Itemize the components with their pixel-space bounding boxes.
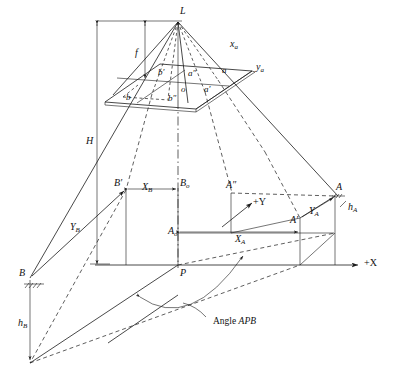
photo-plane <box>105 64 255 112</box>
ya-letter: Y <box>309 205 315 216</box>
xb-subscript: B <box>148 186 152 194</box>
label-ground-a: A <box>336 182 342 192</box>
label-xa: XA <box>235 234 245 244</box>
label-ground-b-prime: B′ <box>114 178 122 188</box>
label-ground-a-dprime: A″ <box>226 180 236 190</box>
ha-subscript: A <box>353 206 357 214</box>
photo-axis-x-subscript: a <box>234 43 238 51</box>
label-plus-x-axis: +X <box>364 258 377 268</box>
lower-convergence-rays <box>30 265 300 363</box>
hb-subscript: B <box>23 322 27 330</box>
label-image-point-a-dprime: a″ <box>188 69 196 78</box>
label-image-point-a-prime: a′ <box>204 85 210 94</box>
top-dimension-line <box>97 21 182 26</box>
perspective-ray-bundle <box>113 22 218 103</box>
photogrammetry-figure: L f H o a a′ a″ b b′ b″ xa ya B′ XB Bo Y… <box>0 0 405 380</box>
label-angle-apb: Angle APB <box>213 317 256 327</box>
label-image-point-a: a <box>222 66 227 75</box>
diagram-canvas <box>0 0 405 380</box>
xa-subscript: A <box>241 238 245 246</box>
label-hb: hB <box>18 318 27 328</box>
label-focal-length: f <box>135 48 138 58</box>
label-ground-b: B <box>19 268 25 278</box>
label-exposure-station: L <box>180 6 186 16</box>
label-photo-origin: o <box>181 85 186 94</box>
label-ya: YA <box>309 206 319 216</box>
label-ha: hA <box>348 202 357 212</box>
label-xb: XB <box>142 182 152 192</box>
ya-subscript: A <box>315 210 319 218</box>
bo-subscript: o <box>186 182 190 190</box>
label-flying-height: H <box>86 136 93 146</box>
label-ground-a-prime: A′ <box>290 215 298 225</box>
label-image-point-b-dprime: b″ <box>168 94 176 103</box>
angle-note-prefix: Angle <box>213 316 239 326</box>
yb-subscript: B <box>76 226 80 234</box>
yb-letter: Y <box>70 221 76 232</box>
ha-leader <box>332 194 346 207</box>
label-ground-a-o: Ao <box>168 226 178 236</box>
photo-axis-y-subscript: a <box>260 66 264 74</box>
label-ground-b-o: Bo <box>180 178 190 188</box>
ao-subscript: o <box>174 230 178 238</box>
label-ground-p: P <box>180 268 186 278</box>
label-image-point-b-prime: b′ <box>158 68 164 77</box>
angle-note-points: APB <box>239 316 256 326</box>
label-photo-axis-xa: xa <box>230 39 238 49</box>
label-plus-y-axis: +Y <box>253 197 266 207</box>
plus-y-axis <box>222 203 252 227</box>
label-image-point-b: b <box>126 93 131 102</box>
label-photo-axis-ya: ya <box>256 62 264 72</box>
label-yb: YB <box>70 222 80 232</box>
